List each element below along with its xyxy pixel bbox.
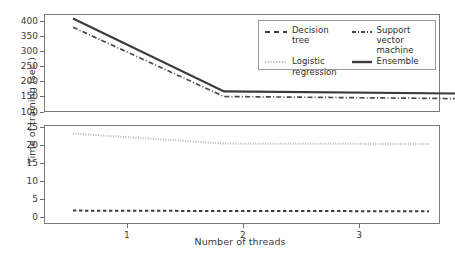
legend-label-line: vector [377,35,432,45]
y-tick-label: 5 [32,194,38,204]
y-tick-label: 25 [27,122,38,132]
y-tick-label: 10 [27,176,38,186]
series-line-logistic-regression [73,134,429,145]
y-tick-label: 0 [32,212,38,222]
legend-sample-decision-tree [263,24,289,59]
legend-label-line: Decision [292,25,347,35]
legend-sample-support-vector-machine [350,24,374,59]
y-tick-label: 100 [21,107,38,117]
chart-panel-lower: 25 20 15 10 5 0 1 2 3 [44,125,440,224]
chart-legend: Decision tree Support vector machine [258,20,436,70]
legend-label-line: machine [377,45,432,55]
series-line-decision-tree [73,211,429,212]
y-tick-label: 400 [21,16,38,26]
y-tick-label: 150 [21,91,38,101]
legend-label-line: tree [292,35,347,45]
legend-sample-ensemble [350,55,374,79]
y-tick-label: 250 [21,61,38,71]
y-tick-label: 200 [21,76,38,86]
legend-label-line: regression [292,67,347,77]
legend-label-ensemble: Ensemble [377,55,432,66]
y-tick-label: 20 [27,140,38,150]
legend-label-support-vector-machine: Support vector machine [377,24,432,55]
x-axis-label: Number of threads [40,236,440,247]
y-tick-label: 350 [21,31,38,41]
legend-label-line: Ensemble [377,56,432,66]
plot-lines-lower [44,125,440,224]
chart-figure: Time of training (sec.) 400 350 300 250 … [0,0,455,257]
legend-label-logistic-regression: Logistic regression [292,55,347,76]
y-tick-label: 15 [27,158,38,168]
y-tick-label: 300 [21,46,38,56]
legend-sample-logistic-regression [263,55,289,79]
legend-label-decision-tree: Decision tree [292,24,347,45]
legend-label-line: Support [377,25,432,35]
legend-label-line: Logistic [292,56,347,66]
